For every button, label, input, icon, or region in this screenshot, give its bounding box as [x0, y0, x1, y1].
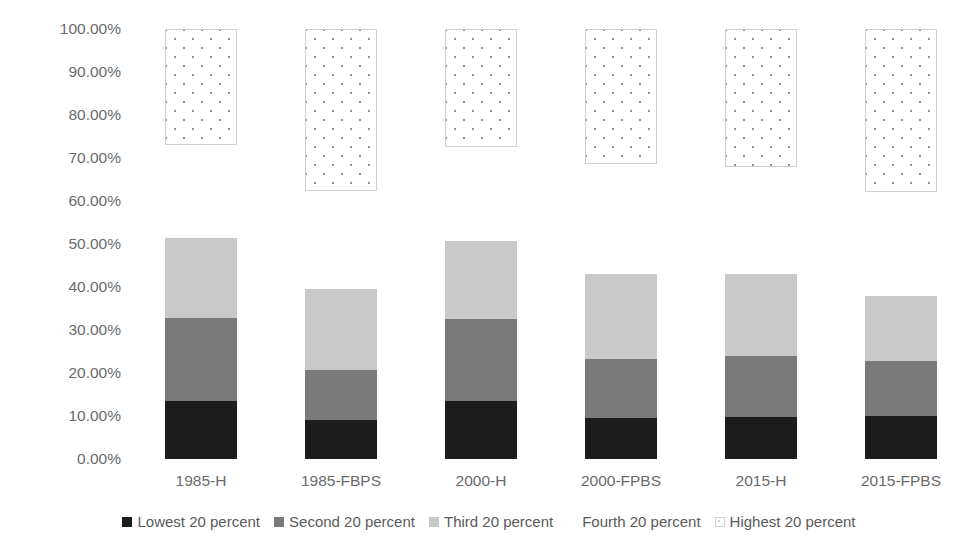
bar-segment-lowest[interactable] [725, 417, 797, 459]
legend-swatch-icon [567, 517, 577, 527]
bar-segment-third[interactable] [165, 238, 237, 318]
y-axis-tick-label: 100.00% [11, 21, 121, 37]
bar-segment-second[interactable] [165, 318, 237, 401]
legend-swatch-icon [274, 517, 284, 527]
y-axis-tick-label: 90.00% [11, 64, 121, 80]
legend-item[interactable]: Highest 20 percent [715, 513, 856, 531]
y-axis: 100.00%90.00%80.00%70.00%60.00%50.00%40.… [0, 0, 131, 545]
bar-segment-lowest[interactable] [865, 416, 937, 459]
bar-segment-third[interactable] [585, 274, 657, 359]
x-axis-tick-label: 2000-H [411, 470, 551, 492]
stacked-bar-chart: 100.00%90.00%80.00%70.00%60.00%50.00%40.… [0, 0, 978, 545]
bar-segment-highest[interactable] [725, 29, 797, 167]
y-axis-tick-label: 30.00% [11, 322, 121, 338]
bar-segment-highest[interactable] [865, 29, 937, 192]
bar-segment-second[interactable] [725, 356, 797, 417]
stacked-column[interactable] [305, 289, 377, 459]
bar-segment-lowest[interactable] [165, 401, 237, 459]
x-axis-tick-label: 1985-FBPS [271, 470, 411, 492]
x-axis-tick-label: 2000-FPBS [551, 470, 691, 492]
stacked-column[interactable] [165, 238, 237, 459]
bar-group[interactable] [305, 29, 377, 459]
x-axis: 1985-H1985-FBPS2000-H2000-FPBS2015-H2015… [131, 470, 971, 500]
legend-item[interactable]: Second 20 percent [274, 513, 415, 531]
bar-segment-highest[interactable] [585, 29, 657, 164]
legend-item[interactable]: Lowest 20 percent [122, 513, 260, 531]
bar-segment-second[interactable] [585, 359, 657, 418]
legend-item[interactable]: Fourth 20 percent [567, 513, 700, 531]
y-axis-tick-label: 70.00% [11, 150, 121, 166]
bar-group[interactable] [165, 29, 237, 459]
legend-label: Third 20 percent [444, 513, 553, 531]
chart-legend: Lowest 20 percentSecond 20 percentThird … [0, 508, 978, 536]
legend-item[interactable]: Third 20 percent [429, 513, 553, 531]
x-axis-tick-label: 2015-H [691, 470, 831, 492]
legend-label: Highest 20 percent [730, 513, 856, 531]
stacked-column[interactable] [445, 241, 517, 459]
bar-segment-second[interactable] [865, 361, 937, 416]
x-axis-tick-label: 1985-H [131, 470, 271, 492]
bar-segment-lowest[interactable] [305, 420, 377, 459]
legend-label: Fourth 20 percent [582, 513, 700, 531]
legend-swatch-icon [429, 517, 439, 527]
bar-group[interactable] [585, 29, 657, 459]
bar-group[interactable] [725, 29, 797, 459]
y-axis-tick-label: 60.00% [11, 193, 121, 209]
bar-segment-lowest[interactable] [445, 401, 517, 459]
legend-swatch-icon [122, 517, 132, 527]
bar-segment-second[interactable] [305, 370, 377, 421]
y-axis-tick-label: 40.00% [11, 279, 121, 295]
bar-group[interactable] [865, 29, 937, 459]
plot-area [131, 29, 971, 459]
y-axis-tick-label: 10.00% [11, 408, 121, 424]
y-axis-tick-label: 80.00% [11, 107, 121, 123]
y-axis-tick-label: 50.00% [11, 236, 121, 252]
bar-segment-lowest[interactable] [585, 418, 657, 459]
legend-label: Lowest 20 percent [137, 513, 260, 531]
x-axis-tick-label: 2015-FPBS [831, 470, 971, 492]
legend-swatch-icon [715, 517, 725, 527]
bar-segment-third[interactable] [305, 289, 377, 369]
bar-segment-highest[interactable] [165, 29, 237, 145]
legend-label: Second 20 percent [289, 513, 415, 531]
stacked-column[interactable] [725, 274, 797, 459]
bar-segment-second[interactable] [445, 319, 517, 401]
bar-group[interactable] [445, 29, 517, 459]
bar-segment-highest[interactable] [445, 29, 517, 147]
y-axis-tick-label: 0.00% [11, 451, 121, 467]
bar-segment-third[interactable] [725, 274, 797, 356]
stacked-column[interactable] [865, 296, 937, 459]
y-axis-tick-label: 20.00% [11, 365, 121, 381]
bar-segment-third[interactable] [445, 241, 517, 319]
bar-segment-third[interactable] [865, 296, 937, 361]
stacked-column[interactable] [585, 274, 657, 459]
bar-segment-highest[interactable] [305, 29, 377, 191]
